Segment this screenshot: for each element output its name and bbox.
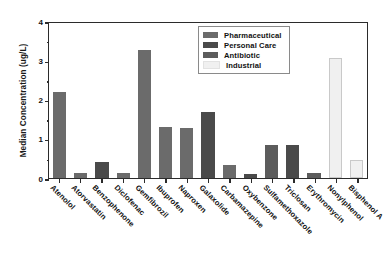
legend-item-industrial: Industrial bbox=[203, 60, 282, 70]
bar-chart-figure: Median Concentration (ug/L) 01234 Atenol… bbox=[0, 0, 388, 268]
legend-item-personal-care: Personal Care bbox=[203, 40, 282, 50]
legend-label: Personal Care bbox=[224, 41, 276, 50]
y-tick-label: 1 bbox=[39, 135, 43, 144]
bar-bisphenol-a bbox=[350, 160, 363, 178]
bar-slot bbox=[113, 23, 134, 178]
bar-atenolol bbox=[53, 92, 66, 178]
y-tick-label: 0 bbox=[39, 175, 43, 184]
bar-slot bbox=[70, 23, 91, 178]
y-tick-label: 2 bbox=[39, 96, 43, 105]
y-tick-label: 4 bbox=[39, 18, 43, 27]
bar-galaxolide bbox=[201, 112, 214, 178]
bar-triclosan bbox=[286, 145, 299, 178]
legend-item-pharmaceutical: Pharmaceutical bbox=[203, 30, 282, 40]
bar-benzophenone bbox=[95, 162, 108, 178]
bar-oxybenzone bbox=[244, 174, 257, 178]
bar-diclofenac bbox=[117, 173, 130, 178]
legend-label: Pharmaceutical bbox=[224, 31, 282, 40]
bar-gemfibrozil bbox=[138, 50, 151, 178]
bar-nonylphenol bbox=[329, 58, 342, 178]
bar-erythromycin bbox=[307, 173, 320, 178]
legend-swatch bbox=[203, 52, 218, 58]
bar-slot bbox=[325, 23, 346, 178]
bar-ibuprofen bbox=[159, 127, 172, 178]
x-axis-labels: AtenololAtorvastatinBenzophenoneDiclofen… bbox=[48, 183, 368, 268]
bar-slot bbox=[134, 23, 155, 178]
bar-naproxen bbox=[180, 128, 193, 178]
bar-slot bbox=[49, 23, 70, 178]
legend-label: Industrial bbox=[226, 61, 261, 70]
bar-slot bbox=[91, 23, 112, 178]
legend-swatch bbox=[203, 61, 220, 69]
legend-swatch bbox=[203, 32, 218, 38]
chart-legend: PharmaceuticalPersonal CareAntibioticInd… bbox=[198, 26, 290, 74]
bar-slot bbox=[176, 23, 197, 178]
bar-slot bbox=[346, 23, 367, 178]
bar-carbamazepine bbox=[223, 165, 236, 178]
bar-sulfamethoxazole bbox=[265, 145, 278, 178]
y-tick-label: 3 bbox=[39, 57, 43, 66]
bar-slot bbox=[303, 23, 324, 178]
y-axis-title: Median Concentration (ug/L) bbox=[19, 16, 28, 186]
bar-slot bbox=[155, 23, 176, 178]
legend-label: Antibiotic bbox=[224, 51, 260, 60]
legend-item-antibiotic: Antibiotic bbox=[203, 50, 282, 60]
bar-atorvastatin bbox=[74, 173, 87, 178]
legend-swatch bbox=[203, 42, 218, 48]
